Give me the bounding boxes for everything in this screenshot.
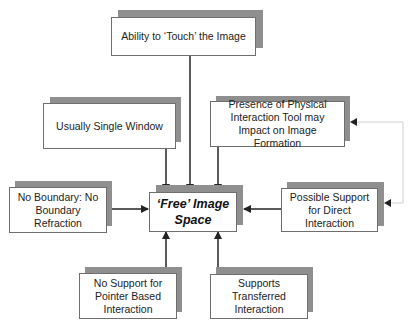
node-touch-label: Ability to ‘Touch’ the Image <box>121 30 246 43</box>
node-direct-interaction-box: Possible Support for Direct Interaction <box>281 188 378 232</box>
arrowhead-into-direct-interaction <box>384 199 391 207</box>
node-no-boundary-box: No Boundary: No Boundary Refraction <box>9 187 107 233</box>
node-no-pointer-box: No Support for Pointer Based Interaction <box>79 273 177 319</box>
node-physical-tool-label: Presence of Physical Interaction Tool ma… <box>215 98 340 150</box>
node-single-window-label: Usually Single Window <box>56 120 163 133</box>
node-direct-interaction-label: Possible Support for Direct Interaction <box>286 191 373 230</box>
node-no-boundary-label: No Boundary: No Boundary Refraction <box>14 191 102 230</box>
node-physical-tool-box: Presence of Physical Interaction Tool ma… <box>210 101 345 147</box>
node-center-box: ‘Free’ Image Space <box>149 192 237 232</box>
node-touch-box: Ability to ‘Touch’ the Image <box>111 17 256 56</box>
node-no-pointer-label: No Support for Pointer Based Interaction <box>84 277 172 316</box>
node-single-window-box: Usually Single Window <box>43 103 176 149</box>
node-transferred-box: Supports Transferred Interaction <box>210 274 308 319</box>
arrowhead-into-physical-tool <box>350 118 357 126</box>
node-transferred-label: Supports Transferred Interaction <box>215 277 303 316</box>
node-center-label: ‘Free’ Image Space <box>154 196 232 228</box>
